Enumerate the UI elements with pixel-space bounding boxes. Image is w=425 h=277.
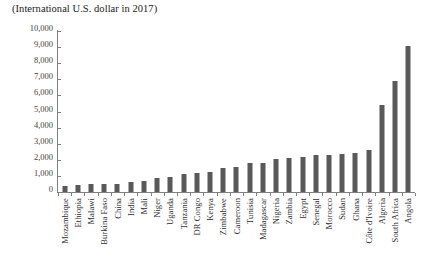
x-axis-tick-label-text: Algeria xyxy=(377,198,386,224)
x-axis-tick-mark xyxy=(336,193,337,196)
bar[interactable] xyxy=(102,184,107,192)
x-axis-tick-label-text: Niger xyxy=(153,198,162,218)
bar[interactable] xyxy=(155,178,160,192)
bar-slot[interactable] xyxy=(151,31,164,192)
x-axis-tick-mark xyxy=(111,193,112,196)
y-axis-tick-label: 1,000 xyxy=(34,169,53,178)
x-axis-tick-label-text: Côte d'Ivoire xyxy=(364,198,373,244)
bar[interactable] xyxy=(141,181,146,192)
x-axis-labels: MozambiqueEthiopiaMalawiBurkina FasoChin… xyxy=(58,198,415,277)
bar[interactable] xyxy=(260,163,265,192)
bar[interactable] xyxy=(327,155,332,192)
y-axis-tick-label: 4,000 xyxy=(34,121,53,130)
x-axis-ticks xyxy=(58,193,415,197)
bar-slot[interactable] xyxy=(124,31,137,192)
bar-slot[interactable] xyxy=(402,31,415,192)
bar[interactable] xyxy=(168,177,173,192)
x-axis-tick-mark xyxy=(375,193,376,196)
bar-chart: (International U.S. dollar in 2017) 01,0… xyxy=(0,0,425,277)
bar-slot[interactable] xyxy=(389,31,402,192)
bar-slot[interactable] xyxy=(256,31,269,192)
x-axis-tick-mark xyxy=(415,193,416,196)
x-axis-tick-mark xyxy=(402,193,403,196)
x-axis-tick-mark xyxy=(124,193,125,196)
x-axis-tick-label-text: Cameroon xyxy=(232,198,241,234)
bar-slot[interactable] xyxy=(190,31,203,192)
bar-slot[interactable] xyxy=(84,31,97,192)
bar-slot[interactable] xyxy=(111,31,124,192)
y-axis-tick-label: 10,000 xyxy=(30,24,53,33)
bar-slot[interactable] xyxy=(283,31,296,192)
bar-slot[interactable] xyxy=(309,31,322,192)
x-axis-tick-mark xyxy=(98,193,99,196)
bar-slot[interactable] xyxy=(137,31,150,192)
bar-slot[interactable] xyxy=(270,31,283,192)
bar-slot[interactable] xyxy=(362,31,375,192)
bar[interactable] xyxy=(313,155,318,192)
y-axis-tick-label: 3,000 xyxy=(34,137,53,146)
bar[interactable] xyxy=(287,158,292,192)
bar-slot[interactable] xyxy=(375,31,388,192)
bar-slot[interactable] xyxy=(203,31,216,192)
x-axis-tick-mark xyxy=(137,193,138,196)
x-axis-tick-label-text: Senegal xyxy=(311,198,320,226)
x-axis-tick-label-text: Sudan xyxy=(338,198,347,220)
x-axis-tick-label-text: Nigeria xyxy=(272,198,281,224)
x-axis-tick-mark xyxy=(230,193,231,196)
bar[interactable] xyxy=(89,184,94,192)
bar[interactable] xyxy=(274,159,279,192)
bar[interactable] xyxy=(393,81,398,192)
bar-slot[interactable] xyxy=(322,31,335,192)
bar-slot[interactable] xyxy=(71,31,84,192)
bar[interactable] xyxy=(115,184,120,192)
x-axis-tick-mark xyxy=(322,193,323,196)
x-axis-tick-label-text: China xyxy=(113,198,122,219)
bar-slot[interactable] xyxy=(177,31,190,192)
bar-slot[interactable] xyxy=(336,31,349,192)
y-axis-tick-label: 2,000 xyxy=(34,153,53,162)
x-axis-tick-mark xyxy=(243,193,244,196)
bar[interactable] xyxy=(181,174,186,193)
x-axis-tick-mark xyxy=(256,193,257,196)
bar[interactable] xyxy=(221,168,226,192)
bar[interactable] xyxy=(247,163,252,192)
x-axis-tick-mark xyxy=(151,193,152,196)
x-axis-tick-mark xyxy=(203,193,204,196)
bar[interactable] xyxy=(62,186,67,192)
bar[interactable] xyxy=(379,105,384,192)
x-axis-tick-mark xyxy=(270,193,271,196)
bar[interactable] xyxy=(194,173,199,192)
bar[interactable] xyxy=(234,167,239,192)
y-axis-tick-label: 7,000 xyxy=(34,72,53,81)
y-axis-tick-label: 0 xyxy=(49,185,53,194)
x-axis-tick-label-text: DR Congo xyxy=(192,198,201,235)
x-axis-tick-label-text: South Africa xyxy=(391,198,400,242)
x-axis-tick-label-text: Zambia xyxy=(285,198,294,225)
bar-slot[interactable] xyxy=(217,31,230,192)
bar[interactable] xyxy=(366,150,371,192)
chart-title: (International U.S. dollar in 2017) xyxy=(12,2,157,16)
x-axis-tick-mark xyxy=(283,193,284,196)
x-axis-tick-label-text: Malawi xyxy=(87,198,96,225)
x-axis-tick-mark xyxy=(217,193,218,196)
bar[interactable] xyxy=(340,154,345,192)
bar-slot[interactable] xyxy=(58,31,71,192)
bar-slot[interactable] xyxy=(230,31,243,192)
bar[interactable] xyxy=(128,182,133,192)
x-axis-tick-label-text: Zimbabwe xyxy=(219,198,228,235)
x-axis-tick-label-text: Tanzania xyxy=(179,198,188,229)
bar-slot[interactable] xyxy=(164,31,177,192)
bar[interactable] xyxy=(300,157,305,192)
bar[interactable] xyxy=(75,185,80,192)
bar-slot[interactable] xyxy=(98,31,111,192)
x-axis-tick-label-text: Ethiopia xyxy=(73,198,82,228)
bar-slot[interactable] xyxy=(349,31,362,192)
bar-slot[interactable] xyxy=(243,31,256,192)
bar-slot[interactable] xyxy=(296,31,309,192)
bar[interactable] xyxy=(208,172,213,192)
bar[interactable] xyxy=(353,153,358,192)
bar[interactable] xyxy=(406,46,411,193)
x-axis-tick-mark xyxy=(296,193,297,196)
y-axis-tick-label: 8,000 xyxy=(34,56,53,65)
x-axis-tick-label-text: Mali xyxy=(139,198,148,214)
